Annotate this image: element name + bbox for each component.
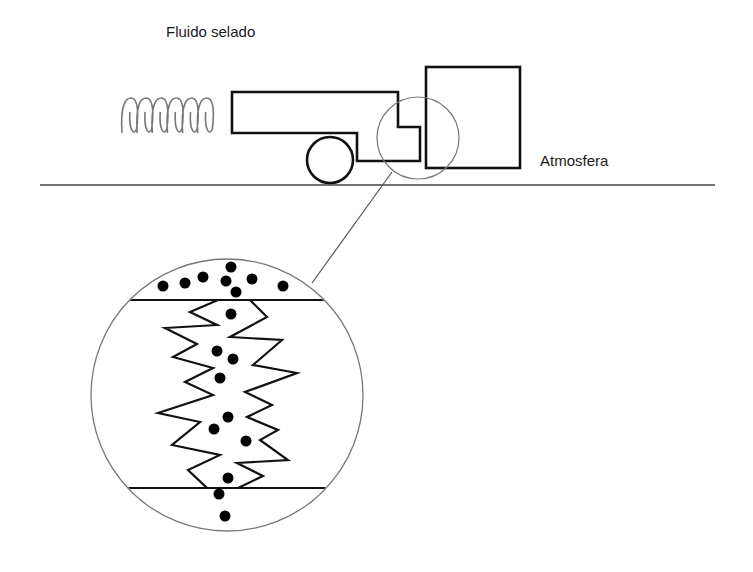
particle-dot [241,436,252,447]
particle-dot [221,276,232,287]
particle-dot [223,473,234,484]
particle-dot [215,373,226,384]
particle-dot [247,274,258,285]
particle-dot [223,412,234,423]
particle-dot [212,346,223,357]
particle-dot [180,278,191,289]
particle-dot [214,489,225,500]
magnification-connector-line [312,172,392,283]
particle-dot [220,511,231,522]
spring-icon [122,98,214,133]
sealed-fluid-label: Fluido selado [166,23,255,40]
o-ring-circle [307,137,353,183]
particle-dot [228,354,239,365]
particle-dot [226,262,237,273]
particle-dot [158,281,169,292]
particle-dot [209,424,220,435]
atmosphere-label: Atmosfera [540,152,608,169]
particle-dot [226,309,237,320]
particle-dot [198,272,209,283]
mechanical-seal-diagram [0,0,753,572]
particle-dot [231,287,242,298]
spring-coil [122,98,214,133]
mating-ring-square [426,67,520,168]
particle-dot [278,281,289,292]
